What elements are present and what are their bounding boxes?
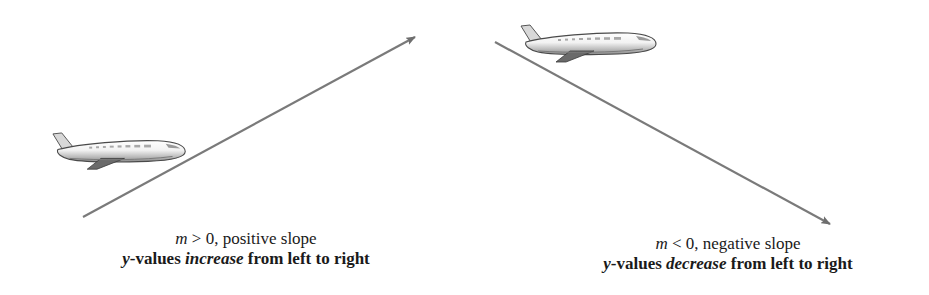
- slope-variable: m: [175, 229, 187, 248]
- description-prefix: -values: [130, 249, 185, 268]
- y-variable: y: [603, 254, 611, 273]
- description-emphasis: increase: [185, 249, 244, 268]
- airplane-icon: [521, 25, 656, 62]
- airplane-icon: [53, 133, 185, 169]
- positive-slope-panel: [53, 37, 415, 217]
- negative-slope-panel: [495, 25, 830, 224]
- y-variable: y: [122, 249, 130, 268]
- negative-slope-line: [495, 42, 830, 224]
- slope-relation: < 0, negative slope: [668, 234, 801, 253]
- slope-variable: m: [655, 234, 667, 253]
- positive-slope-description: y-values increase from left to right: [115, 249, 377, 269]
- description-prefix: -values: [611, 254, 666, 273]
- positive-slope-caption: m > 0, positive slope y-values increase …: [115, 229, 377, 269]
- negative-slope-description: y-values decrease from left to right: [572, 254, 884, 274]
- slope-relation: > 0, positive slope: [188, 229, 317, 248]
- negative-slope-condition: m < 0, negative slope: [572, 234, 884, 254]
- description-suffix: from left to right: [727, 254, 853, 273]
- description-suffix: from left to right: [244, 249, 370, 268]
- negative-slope-caption: m < 0, negative slope y-values decrease …: [572, 234, 884, 274]
- positive-slope-line: [83, 37, 415, 217]
- positive-slope-condition: m > 0, positive slope: [115, 229, 377, 249]
- description-emphasis: decrease: [666, 254, 726, 273]
